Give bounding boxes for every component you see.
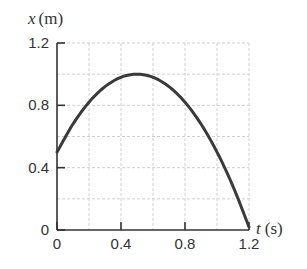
- x-tick-label: 0: [53, 235, 61, 252]
- y-tick-label: 0.4: [28, 159, 49, 176]
- y-tick-label: 0.8: [28, 96, 49, 113]
- x-tick-label: 0.4: [111, 235, 132, 252]
- y-tick-label: 1.2: [28, 34, 49, 51]
- y-tick-label: 0: [41, 221, 49, 238]
- grid: [57, 43, 249, 230]
- position-time-chart: 00.40.81.200.40.81.2 x(m) t(s): [0, 0, 307, 269]
- y-axis-label: x(m): [27, 9, 63, 28]
- x-axis-label: t(s): [256, 219, 283, 238]
- x-tick-label: 0.8: [175, 235, 196, 252]
